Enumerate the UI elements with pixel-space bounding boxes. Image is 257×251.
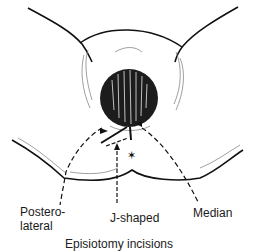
pubic-arch: [80, 30, 182, 47]
right-thigh-contour: [175, 7, 238, 62]
posterolateral-incision: [101, 127, 127, 143]
label-posterolateral: Postero- lateral: [20, 205, 80, 233]
anus-marker: ✶: [127, 149, 136, 162]
figure-caption: Episiotomy incisions: [65, 237, 173, 251]
arrow-j: [114, 143, 120, 150]
label-posterolateral-line2: lateral: [20, 219, 80, 233]
fetal-head: [100, 69, 158, 127]
label-posterolateral-line1: Postero-: [20, 205, 80, 219]
median-incision: [130, 127, 131, 140]
arrow-posterolateral: [100, 128, 108, 134]
label-median: Median: [193, 206, 232, 220]
left-thigh-contour: [28, 8, 92, 62]
label-j-shaped: J-shaped: [110, 211, 159, 225]
perineum-dashed-right: [142, 128, 198, 202]
perineum-dashed-left: [60, 128, 102, 205]
